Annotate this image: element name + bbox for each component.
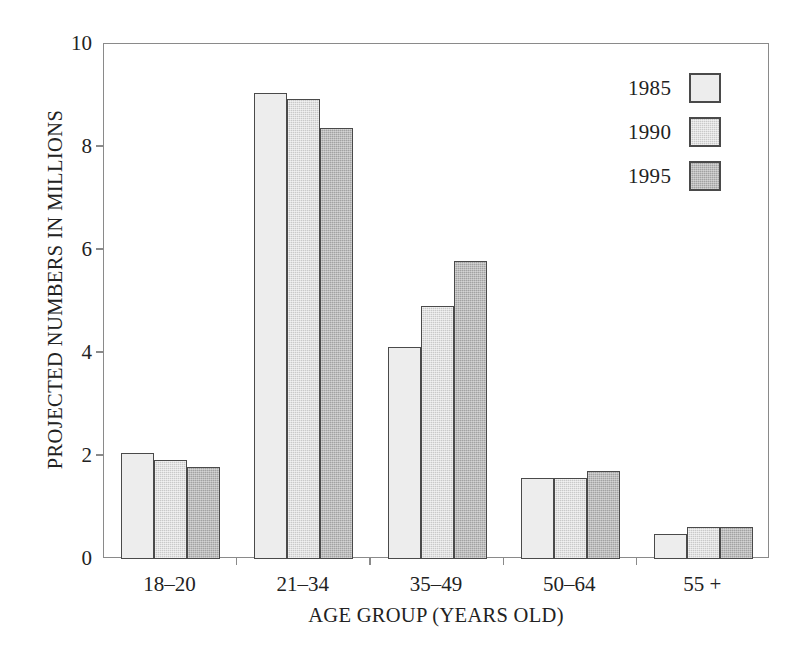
y-axis-title: PROJECTED NUMBERS IN MILLIONS	[44, 20, 67, 560]
legend-item-1990[interactable]: 1990	[628, 112, 721, 152]
bar-1995-2134[interactable]	[320, 128, 353, 559]
bar-1990-1820[interactable]	[154, 460, 187, 559]
legend-swatch	[689, 117, 721, 147]
bar-chart-figure: PROJECTED NUMBERS IN MILLIONS 0246810 18…	[0, 0, 806, 657]
bar-1985-55[interactable]	[654, 534, 687, 559]
x-tick-label: 50–64	[499, 572, 639, 597]
x-tick-label: 21–34	[233, 572, 373, 597]
legend-label: 1995	[628, 164, 671, 189]
bar-1990-55[interactable]	[687, 527, 720, 559]
legend-swatch	[689, 73, 721, 103]
y-tick-label: 6	[52, 237, 92, 262]
legend-label: 1990	[628, 120, 671, 145]
legend-item-1985[interactable]: 1985	[628, 68, 721, 108]
bar-1985-1820[interactable]	[121, 453, 154, 559]
x-tick-label: 55 +	[632, 572, 772, 597]
y-tick-label: 0	[52, 546, 92, 571]
x-tick-mark	[236, 558, 237, 565]
y-tick-label: 2	[52, 443, 92, 468]
y-tick-mark	[96, 454, 103, 455]
x-tick-mark	[503, 558, 504, 565]
x-tick-mark	[369, 558, 370, 565]
y-tick-mark	[96, 248, 103, 249]
bar-1995-3549[interactable]	[454, 261, 487, 559]
legend-label: 1985	[628, 76, 671, 101]
x-tick-mark	[636, 558, 637, 565]
bar-1995-1820[interactable]	[187, 467, 220, 559]
bar-group	[521, 44, 620, 559]
x-tick-label: 35–49	[366, 572, 506, 597]
bar-1995-55[interactable]	[720, 527, 753, 559]
legend: 198519901995	[628, 68, 721, 200]
bar-group	[254, 44, 353, 559]
bar-1985-2134[interactable]	[254, 93, 287, 559]
bar-1990-3549[interactable]	[421, 306, 454, 559]
bar-1985-5064[interactable]	[521, 478, 554, 559]
bar-1990-5064[interactable]	[554, 478, 587, 559]
x-axis-title: AGE GROUP (YEARS OLD)	[103, 604, 769, 627]
bar-1995-5064[interactable]	[587, 471, 620, 559]
bar-group	[388, 44, 487, 559]
y-tick-mark	[96, 351, 103, 352]
y-tick-label: 8	[52, 134, 92, 159]
y-tick-label: 10	[52, 31, 92, 56]
legend-swatch	[689, 161, 721, 191]
y-tick-mark	[96, 145, 103, 146]
bar-1990-2134[interactable]	[287, 99, 320, 559]
y-tick-label: 4	[52, 340, 92, 365]
x-tick-label: 18–20	[100, 572, 240, 597]
bar-group	[121, 44, 220, 559]
bar-1985-3549[interactable]	[388, 347, 421, 559]
legend-item-1995[interactable]: 1995	[628, 156, 721, 196]
